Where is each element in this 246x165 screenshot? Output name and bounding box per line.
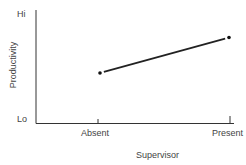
x-axis-title: Supervisor xyxy=(136,150,179,160)
y-axis-title: Productivity xyxy=(8,35,18,95)
x-tick-label-absent: Absent xyxy=(81,128,109,138)
data-point-absent xyxy=(98,71,102,75)
chart-canvas xyxy=(0,0,246,165)
y-tick-lo: Lo xyxy=(17,114,27,124)
series-line xyxy=(104,39,225,72)
data-series xyxy=(98,36,231,75)
x-tick-label-present: Present xyxy=(212,128,243,138)
y-tick-hi: Hi xyxy=(17,9,26,19)
data-point-present xyxy=(227,36,231,40)
